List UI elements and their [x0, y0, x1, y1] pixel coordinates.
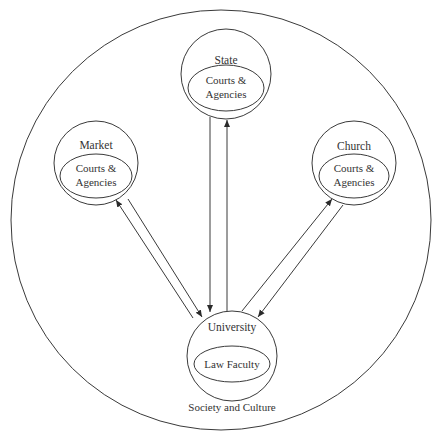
node-state-inner-line1: Courts &: [206, 74, 247, 86]
society-and-culture-label: Society and Culture: [188, 401, 275, 413]
arrow-university-to-market: [116, 200, 193, 318]
node-church-inner-line2: Agencies: [334, 176, 375, 188]
arrow-market-to-university: [128, 199, 202, 317]
node-church-title: Church: [337, 140, 371, 152]
node-university: University Law Faculty: [187, 311, 277, 401]
arrow-church-to-university: [258, 205, 343, 317]
node-church: Church Courts & Agencies: [312, 121, 396, 205]
node-market-inner-line1: Courts &: [76, 162, 117, 174]
diagram-canvas: State Courts & Agencies Market Courts & …: [0, 0, 442, 441]
node-state-inner-line2: Agencies: [206, 88, 247, 100]
node-church-inner-line1: Courts &: [334, 162, 375, 174]
node-market-inner-line2: Agencies: [76, 176, 117, 188]
node-university-title: University: [208, 321, 257, 334]
node-university-inner-line1: Law Faculty: [204, 358, 260, 370]
node-market: Market Courts & Agencies: [54, 121, 138, 205]
node-market-title: Market: [79, 139, 113, 151]
arrow-university-to-church: [242, 199, 332, 311]
node-state-title: State: [215, 54, 238, 66]
node-state: State Courts & Agencies: [181, 29, 271, 119]
